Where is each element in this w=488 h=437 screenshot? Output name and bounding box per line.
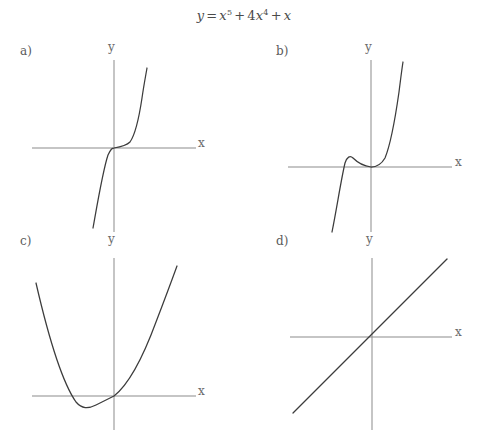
panel-c-plot xyxy=(32,258,196,430)
graphs-canvas xyxy=(0,0,488,437)
panel-d-plot xyxy=(290,258,452,430)
panel-a-plot xyxy=(32,60,196,232)
panel-b-plot xyxy=(288,60,452,232)
panel-c-curve xyxy=(36,266,177,408)
panel-d-line xyxy=(293,259,447,413)
multiple-choice-graph-figure: y=x5+4x4+x a) b) c) d) x y x y x y x y xyxy=(0,0,488,437)
panel-b-curve xyxy=(332,62,403,232)
